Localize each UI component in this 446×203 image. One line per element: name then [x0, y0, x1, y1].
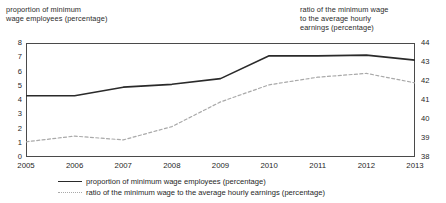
y-tick-right-44: 44	[421, 39, 441, 47]
x-tick-2011: 2011	[300, 162, 336, 170]
y-tick-left-6: 6	[6, 68, 22, 76]
x-tick-2009: 2009	[203, 162, 239, 170]
series-line-ratio	[26, 73, 415, 141]
y-tick-left-3: 3	[6, 110, 22, 118]
y-tick-left-1: 1	[6, 139, 22, 147]
y-tick-right-42: 42	[421, 77, 441, 85]
series-line-proportion	[26, 55, 415, 96]
x-tick-2012: 2012	[348, 162, 384, 170]
y-tick-right-38: 38	[421, 153, 441, 161]
legend-label-proportion: proportion of minimum wage employees (pe…	[86, 176, 266, 187]
x-tick-2005: 2005	[8, 162, 44, 170]
x-tick-2013: 2013	[397, 162, 433, 170]
chart-figure: proportion of minimum wage employees (pe…	[0, 0, 446, 203]
legend-label-ratio: ratio of the minimum wage to the average…	[86, 187, 325, 198]
y-tick-right-41: 41	[421, 96, 441, 104]
x-tick-2008: 2008	[154, 162, 190, 170]
y-tick-left-7: 7	[6, 53, 22, 61]
y-tick-left-8: 8	[6, 39, 22, 47]
chart-legend: proportion of minimum wage employees (pe…	[0, 176, 446, 198]
y-tick-left-4: 4	[6, 96, 22, 104]
plot-lines	[26, 43, 415, 157]
y-tick-right-40: 40	[421, 115, 441, 123]
legend-swatch-dotted	[58, 192, 82, 193]
legend-item-ratio: ratio of the minimum wage to the average…	[0, 187, 446, 198]
legend-swatch-solid	[58, 181, 82, 182]
left-axis-title: proportion of minimum wage employees (pe…	[6, 5, 107, 23]
y-tick-left-5: 5	[6, 82, 22, 90]
legend-item-proportion: proportion of minimum wage employees (pe…	[0, 176, 446, 187]
x-tick-2006: 2006	[57, 162, 93, 170]
right-axis-title: ratio of the minimum wage to the average…	[300, 5, 389, 33]
x-tick-2010: 2010	[251, 162, 287, 170]
x-tick-2007: 2007	[105, 162, 141, 170]
y-tick-right-43: 43	[421, 58, 441, 66]
y-tick-left-2: 2	[6, 125, 22, 133]
y-tick-left-0: 0	[6, 153, 22, 161]
y-tick-right-39: 39	[421, 134, 441, 142]
